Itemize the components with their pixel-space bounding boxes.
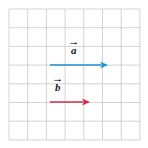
vector-b-overarrow-icon [54,78,62,82]
vector-b-label-text: b [55,81,61,93]
vector-a-overarrow-icon [70,41,78,45]
vector-b-label: b [55,82,61,93]
vector-a-label: a [71,45,77,56]
vectors-layer [0,0,148,148]
vector-a-label-text: a [71,44,77,56]
vector-diagram-figure: a b [0,0,148,148]
